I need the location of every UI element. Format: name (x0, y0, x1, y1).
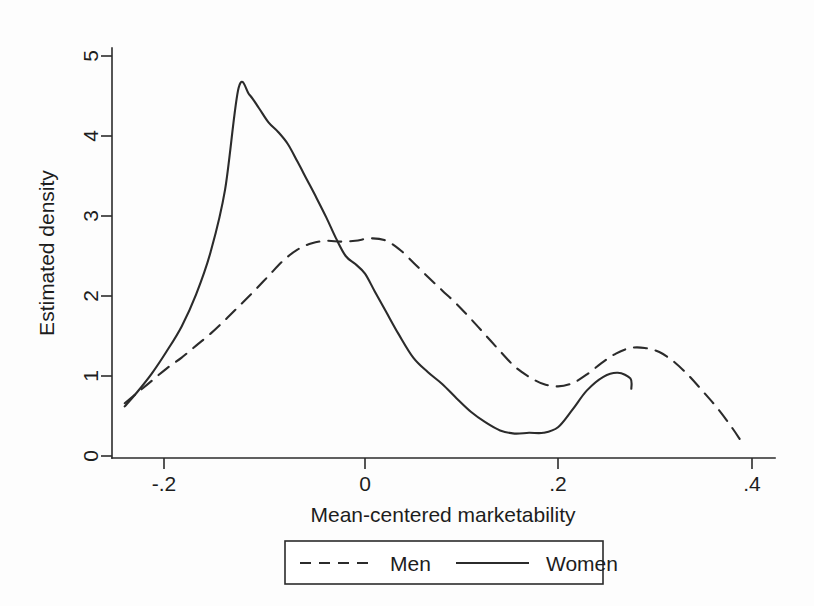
y-tick-label-1: 1 (79, 370, 102, 382)
x-axis-ticks (164, 458, 752, 469)
y-tick-label-5: 5 (79, 50, 102, 62)
x-tick-label-0: 0 (359, 472, 371, 495)
y-tick-label-4: 4 (79, 130, 102, 142)
y-axis-tick-labels: 5 4 3 2 1 0 (79, 50, 102, 462)
series-line-men (125, 238, 741, 440)
y-axis-ticks (101, 56, 112, 456)
x-axis-tick-labels: -.2 0 .2 .4 (152, 472, 761, 495)
series-group (125, 82, 741, 440)
chart-canvas: 5 4 3 2 1 0 Estimated density -.2 0 .2 .… (0, 0, 814, 606)
y-tick-label-3: 3 (79, 210, 102, 222)
x-tick-label-04: .4 (743, 472, 761, 495)
y-tick-label-0: 0 (79, 450, 102, 462)
legend-label-men: Men (390, 552, 431, 575)
x-tick-label-neg02: -.2 (152, 472, 177, 495)
series-line-women (125, 82, 632, 434)
y-tick-label-2: 2 (79, 290, 102, 302)
density-plot-figure: 5 4 3 2 1 0 Estimated density -.2 0 .2 .… (0, 0, 814, 606)
legend-label-women: Women (546, 552, 618, 575)
legend: Men Women (285, 541, 618, 584)
x-axis-title: Mean-centered marketability (311, 503, 576, 526)
x-tick-label-02: .2 (549, 472, 567, 495)
y-axis-title: Estimated density (35, 170, 58, 336)
